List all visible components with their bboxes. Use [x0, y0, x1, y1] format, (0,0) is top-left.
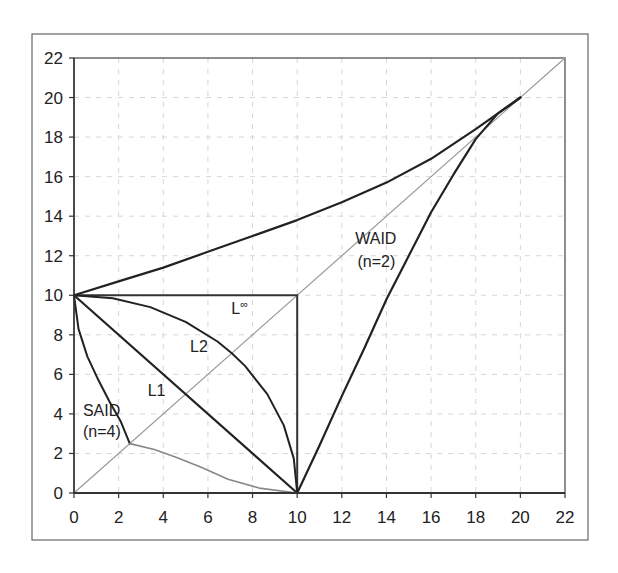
- x-tick-label: 0: [69, 508, 78, 527]
- y-tick-label: 6: [54, 365, 63, 384]
- annotation-waid: WAID: [355, 230, 396, 247]
- y-tick-label: 14: [44, 207, 63, 226]
- y-tick-label: 10: [44, 286, 63, 305]
- x-tick-label: 6: [203, 508, 212, 527]
- y-tick-label: 20: [44, 89, 63, 108]
- y-tick-label: 12: [44, 247, 63, 266]
- annotation-said: SAID: [83, 402, 120, 419]
- y-tick-label: 8: [54, 326, 63, 345]
- y-tick-label: 18: [44, 128, 63, 147]
- x-tick-label: 16: [422, 508, 441, 527]
- x-tick-label: 18: [466, 508, 485, 527]
- x-tick-label: 10: [288, 508, 307, 527]
- y-tick-label: 0: [54, 484, 63, 503]
- x-tick-label: 12: [332, 508, 351, 527]
- annotation-said_n: (n=4): [83, 423, 121, 440]
- y-tick-label: 2: [54, 444, 63, 463]
- x-tick-label: 2: [114, 508, 123, 527]
- annotation-waid_n: (n=2): [357, 253, 395, 270]
- x-tick-label: 22: [556, 508, 575, 527]
- y-tick-label: 16: [44, 168, 63, 187]
- chart-svg: 0246810121416182022 0246810121416182022 …: [0, 0, 618, 573]
- annotation-l1: L1: [148, 382, 166, 399]
- y-tick-label: 4: [54, 405, 63, 424]
- x-tick-label: 8: [248, 508, 257, 527]
- x-tick-label: 14: [377, 508, 396, 527]
- chart-figure: 0246810121416182022 0246810121416182022 …: [0, 0, 618, 573]
- y-tick-label: 22: [44, 49, 63, 68]
- x-tick-label: 20: [511, 508, 530, 527]
- x-tick-label: 4: [159, 508, 168, 527]
- annotation-l2: L2: [190, 338, 208, 355]
